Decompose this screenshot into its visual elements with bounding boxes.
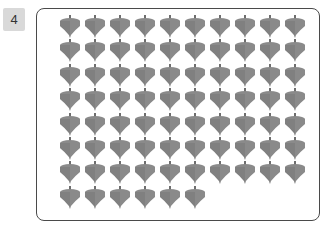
spinning-top-icon — [132, 15, 157, 39]
spinning-top-icon — [207, 15, 232, 39]
spinning-top-icon — [157, 88, 182, 112]
spinning-top-icon — [182, 113, 207, 137]
spinning-top-icon — [257, 113, 282, 137]
spinning-top-icon — [57, 88, 82, 112]
spinning-top-icon — [232, 64, 257, 88]
spinning-top-icon — [132, 113, 157, 137]
spinning-top-icon — [182, 161, 207, 185]
spinning-top-icon — [107, 64, 132, 88]
spinning-top-icon — [107, 88, 132, 112]
spinning-top-icon — [132, 88, 157, 112]
spinning-top-icon — [157, 186, 182, 210]
spinning-top-icon — [57, 39, 82, 63]
spinning-top-icon — [232, 137, 257, 161]
spinning-top-icon — [232, 113, 257, 137]
spinning-top-icon — [82, 64, 107, 88]
spinning-top-icon — [107, 186, 132, 210]
spinning-top-icon — [182, 137, 207, 161]
spinning-top-icon — [182, 88, 207, 112]
spinning-top-icon — [132, 186, 157, 210]
spinning-top-icon — [182, 39, 207, 63]
spinning-top-icon — [232, 161, 257, 185]
spinning-top-icon — [157, 113, 182, 137]
spinning-top-icon — [132, 137, 157, 161]
problem-number: 4 — [10, 12, 17, 27]
spinning-top-icon — [207, 161, 232, 185]
spinning-top-icon — [257, 15, 282, 39]
spinning-top-icon — [282, 88, 307, 112]
spinning-top-icon — [282, 113, 307, 137]
spinning-top-icon — [82, 137, 107, 161]
spinning-top-icon — [207, 137, 232, 161]
spinning-top-icon — [282, 15, 307, 39]
spinning-top-icon — [132, 161, 157, 185]
spinning-top-icon — [257, 137, 282, 161]
spinning-top-icon — [82, 39, 107, 63]
spinning-top-icon — [282, 137, 307, 161]
spinning-top-icon — [157, 137, 182, 161]
spinning-top-icon — [82, 15, 107, 39]
spinning-top-icon — [107, 137, 132, 161]
spinning-top-grid — [57, 15, 307, 210]
spinning-top-icon — [57, 15, 82, 39]
spinning-top-icon — [182, 64, 207, 88]
spinning-top-icon — [57, 186, 82, 210]
spinning-top-icon — [82, 88, 107, 112]
spinning-top-icon — [82, 161, 107, 185]
spinning-top-icon — [82, 186, 107, 210]
spinning-top-icon — [232, 88, 257, 112]
spinning-top-icon — [207, 64, 232, 88]
spinning-top-icon — [182, 15, 207, 39]
spinning-top-icon — [157, 39, 182, 63]
spinning-top-icon — [132, 39, 157, 63]
spinning-top-icon — [57, 64, 82, 88]
spinning-top-icon — [282, 39, 307, 63]
spinning-top-icon — [107, 161, 132, 185]
spinning-top-icon — [157, 15, 182, 39]
spinning-top-icon — [57, 113, 82, 137]
spinning-top-icon — [207, 113, 232, 137]
spinning-top-icon — [257, 64, 282, 88]
spinning-top-icon — [157, 64, 182, 88]
spinning-top-icon — [132, 64, 157, 88]
spinning-top-icon — [107, 39, 132, 63]
spinning-top-icon — [182, 186, 207, 210]
spinning-top-icon — [257, 39, 282, 63]
spinning-top-icon — [257, 88, 282, 112]
spinning-top-icon — [257, 161, 282, 185]
spinning-top-icon — [57, 137, 82, 161]
spinning-top-icon — [232, 39, 257, 63]
spinning-top-icon — [282, 161, 307, 185]
spinning-top-icon — [232, 15, 257, 39]
spinning-top-icon — [207, 39, 232, 63]
spinning-top-icon — [107, 15, 132, 39]
spinning-top-icon — [157, 161, 182, 185]
spinning-top-icon — [107, 113, 132, 137]
spinning-top-icon — [207, 88, 232, 112]
spinning-top-icon — [282, 64, 307, 88]
spinning-top-icon — [57, 161, 82, 185]
spinning-top-icon — [82, 113, 107, 137]
problem-number-badge: 4 — [3, 8, 25, 31]
